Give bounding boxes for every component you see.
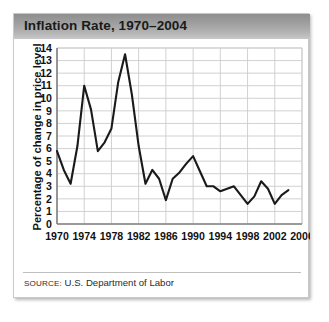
y-tick-label: 3 [46, 180, 52, 192]
source-label: SOURCE: [24, 279, 62, 288]
x-tick-label: 1998 [236, 230, 260, 242]
y-tick-label: 7 [46, 130, 52, 142]
x-tick-label: 2006 [290, 230, 310, 242]
y-tick-label: 1 [46, 205, 52, 217]
x-tick-label: 1970 [45, 230, 69, 242]
figure-title-bar: Inflation Rate, 1970–2004 [14, 14, 310, 39]
y-tick-label: 0 [46, 218, 52, 230]
y-tick-label: 11 [41, 79, 52, 91]
x-tick-label: 1982 [127, 230, 151, 242]
source-note: SOURCE: U.S. Department of Labor [24, 277, 174, 288]
source-separator [23, 272, 301, 273]
y-tick-label: 9 [46, 105, 52, 117]
y-tick-label: 4 [46, 167, 52, 179]
figure-title: Inflation Rate, 1970–2004 [24, 18, 187, 33]
x-tick-label: 1986 [154, 230, 178, 242]
x-tick-label: 1978 [100, 230, 124, 242]
y-tick-label: 5 [46, 155, 52, 167]
y-tick-label: 8 [46, 117, 52, 129]
y-tick-label: 6 [46, 142, 52, 154]
y-tick-label: 14 [40, 42, 52, 54]
chart-region: Percentage of change in price level 0123… [14, 39, 310, 271]
x-tick-label: 1974 [72, 230, 96, 242]
y-tick-label: 10 [40, 92, 52, 104]
y-tick-label: 12 [40, 67, 52, 79]
figure-card: Inflation Rate, 1970–2004 Percentage of … [13, 13, 309, 298]
y-tick-label: 2 [46, 193, 52, 205]
y-tick-label: 13 [40, 54, 52, 66]
source-value: U.S. Department of Labor [65, 277, 174, 288]
line-chart: 0123456789101112131419701974197819821986… [14, 39, 310, 271]
x-tick-label: 1990 [181, 230, 205, 242]
x-tick-label: 2002 [263, 230, 287, 242]
x-tick-label: 1994 [209, 230, 233, 242]
